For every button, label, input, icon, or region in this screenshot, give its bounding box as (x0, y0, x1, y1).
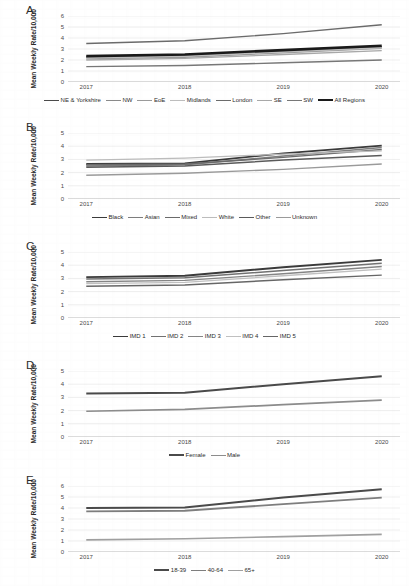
x-tick-label: 2019 (277, 439, 290, 445)
legend-label: SW (303, 96, 313, 104)
legend-swatch (154, 569, 169, 571)
series-line (86, 25, 381, 44)
x-tick-label: 2019 (277, 554, 290, 560)
series-line (86, 376, 381, 393)
y-tick-label: 3 (61, 156, 64, 162)
x-tick-label: 2018 (178, 439, 191, 445)
legend-label: EoE (154, 96, 165, 104)
legend-label: IMD 5 (280, 332, 296, 340)
y-tick-label: 0 (61, 315, 64, 321)
plot-area-a (68, 16, 400, 82)
x-tick-label: 2019 (277, 320, 290, 326)
legend-label: SE (274, 96, 282, 104)
series-line (86, 400, 381, 411)
y-tick-label: 1 (61, 183, 64, 189)
legend-item[interactable]: SW (287, 96, 313, 104)
legend-swatch (137, 100, 152, 101)
y-tick-label: 1 (61, 68, 64, 74)
legend-label: IMD 1 (130, 332, 146, 340)
y-tick-label: 4 (61, 381, 64, 387)
legend-a: NE & YorkshireNWEoEMidlandsLondonSESWAll… (0, 96, 409, 104)
legend-label: All Regions (335, 96, 365, 104)
y-axis-label-a: Mean Weekly Rate/10,000 (26, 18, 42, 80)
y-tick-label: 0 (61, 79, 64, 85)
y-axis-label-c: Mean Weekly Rate/10,000 (26, 254, 42, 316)
legend-item[interactable]: London (216, 96, 253, 104)
legend-label: NW (122, 96, 132, 104)
legend-swatch (169, 454, 184, 456)
legend-label: Midlands (187, 96, 211, 104)
y-tick-label: 4 (61, 262, 64, 268)
x-tick-label: 2018 (178, 554, 191, 560)
legend-item[interactable]: Black (92, 213, 123, 221)
legend-item[interactable]: SE (257, 96, 282, 104)
legend-item[interactable]: White (202, 213, 234, 221)
legend-item[interactable]: NW (106, 96, 133, 104)
plot-wrap-c: 012345 (52, 252, 400, 318)
legend-item[interactable]: Male (211, 451, 241, 459)
plot-area-c (68, 252, 400, 318)
legend-item[interactable]: 40-64 (191, 566, 223, 574)
legend-label: IMD 2 (167, 332, 183, 340)
x-ticks-b: 2017201820192020 (68, 201, 400, 211)
y-tick-label: 1 (61, 538, 64, 544)
legend-item[interactable]: Asian (128, 213, 160, 221)
y-axis-label-d: Mean Weekly Rate/10,000 (26, 373, 42, 435)
x-ticks-d: 2017201820192020 (68, 439, 400, 449)
x-tick-label: 2018 (178, 201, 191, 207)
plot-wrap-d: 012345 (52, 371, 400, 437)
legend-item[interactable]: EoE (137, 96, 165, 104)
legend-item[interactable]: Other (239, 213, 271, 221)
y-tick-label: 5 (61, 494, 64, 500)
legend-swatch (276, 217, 291, 218)
x-tick-label: 2020 (375, 320, 388, 326)
y-tick-label: 1 (61, 302, 64, 308)
legend-item[interactable]: All Regions (318, 96, 365, 104)
legend-label: Other (256, 213, 271, 221)
legend-item[interactable]: Midlands (170, 96, 211, 104)
legend-item[interactable]: Unknown (276, 213, 318, 221)
legend-item[interactable]: IMD 3 (188, 332, 221, 340)
legend-swatch (191, 570, 206, 571)
plot-area-e (68, 486, 400, 552)
y-tick-label: 3 (61, 516, 64, 522)
y-ticks-d: 012345 (52, 371, 66, 437)
legend-item[interactable]: Mixed (165, 213, 198, 221)
y-tick-label: 1 (61, 421, 64, 427)
plot-wrap-b: 012345 (52, 133, 400, 199)
legend-item[interactable]: IMD 1 (113, 332, 146, 340)
legend-item[interactable]: Female (169, 451, 206, 459)
y-tick-label: 4 (61, 143, 64, 149)
y-tick-label: 0 (61, 196, 64, 202)
y-tick-label: 0 (61, 434, 64, 440)
legend-swatch (188, 336, 203, 337)
y-tick-label: 5 (61, 249, 64, 255)
legend-swatch (263, 336, 278, 337)
legend-item[interactable]: IMD 2 (151, 332, 184, 340)
y-tick-label: 3 (61, 46, 64, 52)
y-tick-label: 4 (61, 35, 64, 41)
legend-swatch (228, 570, 243, 571)
legend-swatch (165, 217, 180, 218)
legend-item[interactable]: IMD 5 (263, 332, 296, 340)
legend-label: 65+ (245, 566, 255, 574)
y-tick-label: 5 (61, 368, 64, 374)
legend-swatch (211, 455, 226, 456)
legend-item[interactable]: IMD 4 (226, 332, 259, 340)
plot-area-d (68, 371, 400, 437)
legend-item[interactable]: 18-39 (154, 566, 186, 574)
legend-swatch (128, 217, 143, 218)
y-tick-label: 6 (61, 13, 64, 19)
x-tick-label: 2020 (375, 439, 388, 445)
y-tick-label: 2 (61, 57, 64, 63)
legend-label: NE & Yorkshire (61, 96, 101, 104)
series-line (86, 489, 381, 508)
legend-swatch (113, 336, 128, 337)
legend-item[interactable]: NE & Yorkshire (44, 96, 101, 104)
panel-a: A. Mean Weekly Rate/10,000 0123456 20172… (0, 0, 409, 117)
legend-e: 18-3940-6465+ (0, 566, 409, 574)
plot-area-b (68, 133, 400, 199)
x-ticks-c: 2017201820192020 (68, 320, 400, 330)
legend-item[interactable]: 65+ (228, 566, 255, 574)
x-tick-label: 2017 (80, 554, 93, 560)
